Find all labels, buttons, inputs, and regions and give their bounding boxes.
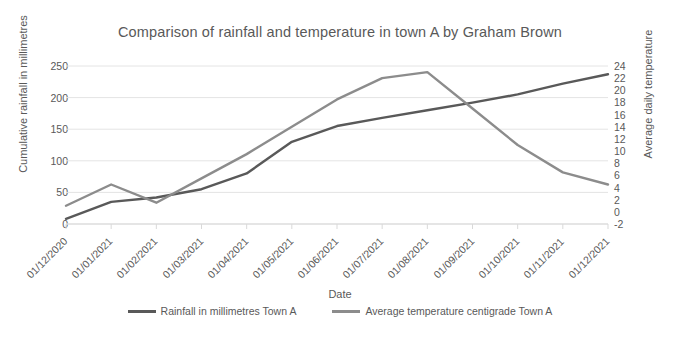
x-tick-label: 01/10/2021 xyxy=(476,235,522,281)
chart-title: Comparison of rainfall and temperature i… xyxy=(0,24,680,40)
x-tick-label: 01/02/2021 xyxy=(114,235,160,281)
x-tick-label: 01/09/2021 xyxy=(431,235,477,281)
y-tick-label-right: 10 xyxy=(614,145,636,157)
y-tick-label-right: 8 xyxy=(614,157,636,169)
y-axis-title-right: Average daily temperature xyxy=(642,0,654,189)
y-tick-label-right: 0 xyxy=(614,206,636,218)
y-tick-label-right: -2 xyxy=(614,218,636,230)
plot-svg xyxy=(66,66,608,224)
x-tick-label: 01/12/2020 xyxy=(24,235,70,281)
x-tick-label: 01/01/2021 xyxy=(69,235,115,281)
y-tick-label-right: 20 xyxy=(614,84,636,96)
x-axis-title: Date xyxy=(0,288,680,300)
y-tick-label-right: 14 xyxy=(614,121,636,133)
x-tick-label: 01/06/2021 xyxy=(295,235,341,281)
y-tick-label-right: 12 xyxy=(614,133,636,145)
y-tick-label-right: 18 xyxy=(614,96,636,108)
legend-swatch-icon xyxy=(332,310,360,313)
x-tick-label: 01/04/2021 xyxy=(205,235,251,281)
series-line xyxy=(66,74,608,219)
y-tick-label-left: 150 xyxy=(28,123,68,135)
chart-legend: Rainfall in millimetres Town AAverage te… xyxy=(0,305,680,317)
y-tick-label-right: 16 xyxy=(614,109,636,121)
x-tick-label: 01/07/2021 xyxy=(340,235,386,281)
y-tick-label-right: 6 xyxy=(614,169,636,181)
chart-container: Comparison of rainfall and temperature i… xyxy=(0,0,680,339)
x-tick-marks xyxy=(66,224,608,229)
y-tick-label-left: 250 xyxy=(28,60,68,72)
legend-label: Average temperature centigrade Town A xyxy=(365,305,552,317)
legend-item[interactable]: Average temperature centigrade Town A xyxy=(332,305,552,317)
x-tick-label: 01/08/2021 xyxy=(385,235,431,281)
x-tick-label: 01/12/2021 xyxy=(566,235,612,281)
x-tick-label: 01/03/2021 xyxy=(160,235,206,281)
y-tick-label-right: 24 xyxy=(614,60,636,72)
y-tick-label-left: 200 xyxy=(28,92,68,104)
y-tick-label-left: 0 xyxy=(28,218,68,230)
legend-swatch-icon xyxy=(128,310,156,313)
data-series xyxy=(66,72,608,219)
x-tick-label: 01/11/2021 xyxy=(521,235,566,280)
plot-area xyxy=(66,66,608,224)
x-tick-label: 01/05/2021 xyxy=(250,235,296,281)
legend-label: Rainfall in millimetres Town A xyxy=(161,305,297,317)
legend-item[interactable]: Rainfall in millimetres Town A xyxy=(128,305,297,317)
y-tick-label-right: 2 xyxy=(614,194,636,206)
y-tick-label-right: 4 xyxy=(614,182,636,194)
y-tick-label-right: 22 xyxy=(614,72,636,84)
y-tick-label-left: 50 xyxy=(28,186,68,198)
y-tick-label-left: 100 xyxy=(28,155,68,167)
